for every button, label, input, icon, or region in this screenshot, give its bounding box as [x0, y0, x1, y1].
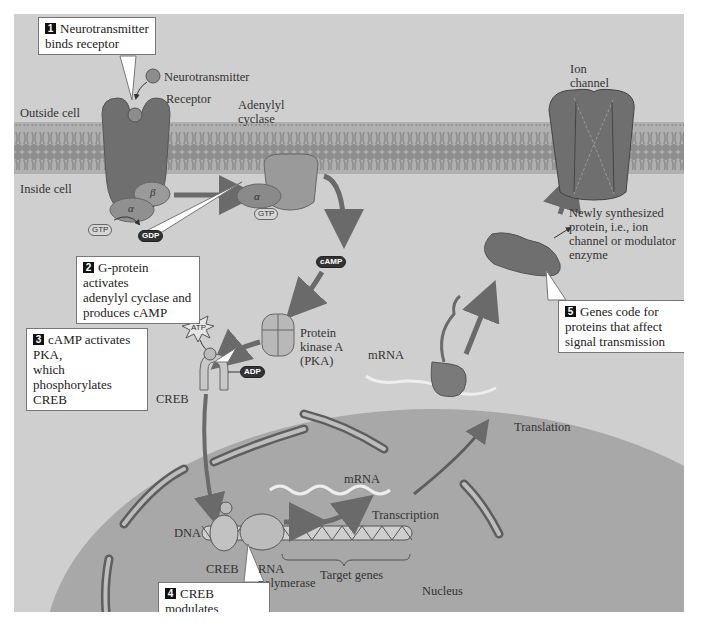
inside-cell-label: Inside cell [20, 182, 72, 196]
rna-polymerase-shape [240, 514, 284, 550]
alpha-subunit-label: α [128, 202, 134, 214]
figure-canvas: Outside cell Inside cell Nucleus Neurotr… [14, 14, 684, 612]
gtp-active-badge: GTP [254, 208, 278, 220]
pka-label: Protein kinase A (PKA) [300, 326, 360, 368]
step-number-badge: 1 [45, 23, 56, 34]
callout-text: CREB modulates gene transcription [165, 586, 259, 612]
creb-cytoplasm-shape [200, 348, 228, 390]
new-protein-label: Newly synthesized protein, i.e., ion cha… [569, 206, 681, 262]
pka-shape [262, 314, 294, 356]
neurotransmitter-label: Neurotransmitter [164, 70, 249, 84]
ion-channel-shape [549, 89, 634, 200]
neurotransmitter-molecule [136, 69, 160, 98]
callout-step-3: 3cAMP activates PKA, which phosphorylate… [26, 328, 148, 411]
callout-text: G-protein activates adenylyl cyclase and… [83, 260, 191, 320]
callout-text: Neurotransmitter binds receptor [45, 21, 149, 51]
camp-badge: cAMP [316, 256, 346, 268]
step-number-badge: 4 [165, 588, 176, 599]
new-protein-shape [484, 233, 560, 276]
creb-cytoplasm-label: CREB [156, 392, 189, 406]
gdp-badge: GDP [138, 230, 163, 242]
callout-step-4: 4CREB modulates gene transcription [158, 582, 270, 612]
mrna-nucleus-label: mRNA [344, 472, 380, 486]
adp-badge: ADP [240, 366, 265, 378]
outside-cell-label: Outside cell [20, 106, 80, 120]
target-genes-label: Target genes [320, 568, 383, 582]
ribosome-translation [366, 296, 496, 397]
translation-label: Translation [514, 420, 571, 434]
transcription-label: Transcription [372, 508, 439, 522]
callout-step-5: 5Genes code for proteins that affect sig… [558, 300, 684, 353]
gtp-badge: GTP [88, 224, 112, 236]
callout-step-2: 2G-protein activates adenylyl cyclase an… [76, 256, 200, 324]
step-number-badge: 5 [565, 306, 576, 317]
nucleus-label: Nucleus [422, 584, 463, 598]
step-number-badge: 3 [33, 334, 44, 345]
beta-subunit-label: β [150, 186, 155, 198]
callout-step-1: 1Neurotransmitter binds receptor [38, 17, 156, 55]
alpha-subunit-active-label: α [254, 190, 260, 202]
atp-label: ATP [188, 323, 209, 333]
ion-channel-label: Ion channel [570, 62, 620, 90]
callout-text: Genes code for proteins that affect sign… [565, 304, 665, 349]
adenylyl-cyclase-label: Adenylyl cyclase [238, 98, 298, 126]
callout-text: cAMP activates PKA, which phosphorylates… [33, 332, 130, 407]
step-number-badge: 2 [83, 262, 94, 273]
receptor-label: Receptor [166, 92, 211, 106]
creb-nucleus-label: CREB [206, 562, 239, 576]
mrna-cytoplasm-label: mRNA [368, 348, 404, 362]
dna-label: DNA [174, 526, 201, 540]
